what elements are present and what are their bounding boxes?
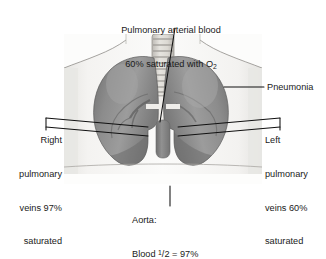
aorta — [156, 120, 170, 158]
left-hilum — [166, 104, 180, 109]
right-hilum — [146, 104, 160, 109]
label-pulmonary-arterial-line2: 60% saturated with O2 — [103, 59, 239, 70]
label-pulmonary-arterial-line1: Pulmonary arterial blood — [103, 25, 239, 36]
label-aorta-saturation: Aorta: Blood 1/2 = 97% 1/2 = 60% Mean sa… — [132, 193, 254, 259]
label-left-veins-line3: veins 60% — [265, 203, 326, 214]
label-aorta-line2: Blood 1/2 = 97% — [132, 249, 254, 259]
label-left-veins-line4: saturated — [265, 236, 326, 247]
label-aorta-line1: Aorta: — [132, 215, 254, 226]
label-left-pulmonary-veins: Left pulmonary veins 60% saturated — [265, 113, 326, 259]
label-right-veins-line1: Right — [0, 135, 62, 146]
label-aorta-line2-numerator: 1 — [158, 249, 162, 256]
label-left-veins-line1: Left — [265, 135, 326, 146]
label-pulmonary-arterial-line2-text: 60% saturated with O — [125, 59, 213, 69]
label-left-veins-line2: pulmonary — [265, 169, 326, 180]
lower-margin — [64, 174, 262, 184]
label-pulmonary-arterial-blood: Pulmonary arterial blood 60% saturated w… — [103, 3, 239, 93]
label-aorta-blood-word: Blood — [132, 249, 158, 259]
label-pneumonia: Pneumonia — [267, 82, 313, 93]
label-right-pulmonary-veins: Right pulmonary veins 97% saturated — [0, 113, 62, 259]
label-right-veins-line3: veins 97% — [0, 203, 62, 214]
o2-subscript: 2 — [213, 63, 217, 70]
label-aorta-line2-denominator: 2 = 97% — [164, 249, 198, 259]
label-right-veins-line4: saturated — [0, 236, 62, 247]
pneumonia-saturation-diagram: Pulmonary arterial blood 60% saturated w… — [0, 0, 326, 259]
label-right-veins-line2: pulmonary — [0, 169, 62, 180]
